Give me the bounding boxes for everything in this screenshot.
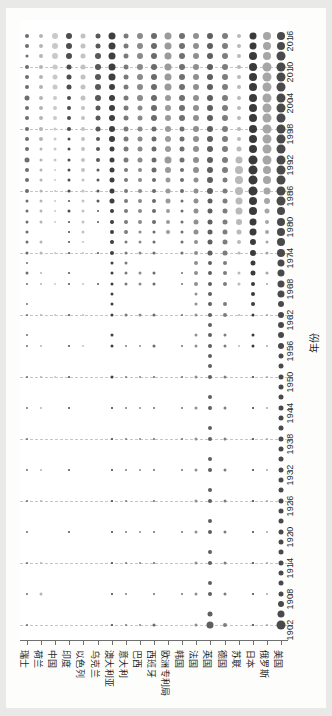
data-point (262, 93, 271, 102)
data-point (252, 531, 254, 533)
data-point (195, 292, 198, 295)
data-point (223, 375, 226, 378)
data-point (138, 251, 141, 254)
data-point (193, 95, 199, 101)
data-point (82, 252, 84, 254)
chart-figure: 1902190819141920192619321938194419501956… (6, 8, 326, 708)
data-point (66, 53, 72, 59)
data-point (181, 199, 184, 202)
data-point (266, 345, 268, 347)
data-point (95, 126, 100, 131)
country-tick (196, 641, 197, 645)
data-point (96, 158, 100, 162)
country-tick-label: 印度 (60, 650, 73, 669)
data-point (278, 405, 283, 410)
data-point (263, 166, 271, 174)
data-point (180, 136, 185, 141)
data-point (278, 301, 284, 307)
data-point (26, 210, 29, 213)
data-point (207, 84, 213, 90)
data-point (278, 488, 283, 493)
data-point (152, 157, 157, 162)
data-point (194, 271, 198, 275)
data-point (223, 344, 226, 347)
data-point (237, 106, 241, 110)
data-point (68, 168, 71, 171)
data-point (40, 283, 42, 285)
country-tick (41, 641, 42, 645)
data-point (26, 303, 28, 305)
year-tick-label: 2016 (285, 30, 295, 51)
data-point (266, 562, 268, 564)
data-point (81, 127, 85, 131)
data-point (25, 157, 30, 162)
data-point (81, 85, 86, 90)
data-point (67, 106, 71, 110)
data-point (153, 562, 155, 564)
data-point (26, 438, 28, 440)
data-point (194, 198, 199, 203)
data-point (277, 32, 285, 40)
data-point (110, 375, 113, 378)
data-point (266, 283, 268, 285)
data-point (110, 209, 114, 213)
data-point (111, 438, 113, 440)
data-point (125, 469, 127, 471)
data-point (165, 73, 172, 80)
data-point (109, 105, 115, 111)
data-point (179, 43, 185, 49)
data-point (68, 158, 71, 161)
data-point (180, 147, 185, 152)
data-point (208, 240, 213, 245)
data-point (277, 259, 284, 266)
data-point (193, 146, 199, 152)
data-point (278, 539, 283, 544)
data-point (138, 199, 142, 203)
data-point (249, 94, 257, 102)
data-point (125, 593, 127, 595)
data-point (249, 197, 257, 205)
data-point (95, 84, 101, 90)
country-tick-label: 瑞士 (18, 650, 31, 669)
data-point (39, 106, 43, 110)
data-point (111, 562, 113, 564)
data-point (39, 34, 43, 38)
data-point (166, 188, 171, 193)
data-point (139, 562, 141, 564)
year-tick-label: 1974 (285, 247, 295, 268)
data-point (193, 53, 199, 59)
data-point (235, 156, 242, 163)
country-tick (253, 641, 254, 645)
country-tick-label: 美国 (272, 650, 285, 669)
data-point (262, 124, 271, 133)
data-point (111, 500, 113, 502)
data-point (123, 136, 128, 141)
data-point (181, 251, 184, 254)
data-point (194, 188, 199, 193)
data-point (193, 136, 199, 142)
data-point (223, 499, 226, 502)
year-tick-label: 1908 (285, 588, 295, 609)
country-tick (281, 641, 282, 645)
data-point (251, 344, 254, 347)
data-point (109, 136, 115, 142)
data-point (139, 407, 141, 409)
data-point (251, 313, 254, 316)
data-point (95, 53, 101, 59)
data-point (208, 323, 212, 327)
data-point (208, 292, 212, 296)
data-point (181, 283, 183, 285)
data-point (108, 32, 115, 39)
data-point (208, 530, 212, 534)
data-point (110, 240, 114, 244)
data-point (222, 219, 227, 224)
data-point (207, 167, 213, 173)
data-point (193, 105, 199, 111)
data-point (263, 42, 271, 50)
data-point (68, 200, 70, 202)
data-point (165, 126, 171, 132)
data-point (195, 468, 198, 471)
data-point (111, 531, 113, 533)
data-point (249, 218, 256, 225)
data-point (109, 188, 114, 193)
